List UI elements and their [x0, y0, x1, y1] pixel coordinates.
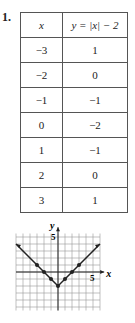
- table-row: −1−1: [21, 88, 128, 113]
- table-row: 31: [21, 188, 128, 213]
- table-row: 20: [21, 163, 128, 188]
- data-point: [56, 284, 60, 288]
- data-point: [70, 270, 74, 274]
- header-y: y = |x| − 2: [63, 13, 128, 38]
- x-axis-label: x: [105, 268, 111, 279]
- cell-x: 3: [21, 188, 63, 213]
- table-row: −31: [21, 38, 128, 63]
- y-axis-arrow: [56, 227, 60, 231]
- data-point: [63, 277, 67, 281]
- data-point: [49, 277, 53, 281]
- cell-y: 1: [63, 38, 128, 63]
- cell-y: 1: [63, 188, 128, 213]
- y-axis-label: y: [49, 222, 55, 231]
- cell-x: −3: [21, 38, 63, 63]
- x-tick-label: 5: [90, 273, 95, 283]
- cell-y: 0: [63, 163, 128, 188]
- graph: 55xy: [0, 222, 135, 323]
- table-row: 1−1: [21, 138, 128, 163]
- header-x: x: [21, 13, 63, 38]
- x-axis-arrow: [100, 270, 104, 274]
- cell-y: 0: [63, 63, 128, 88]
- data-point: [35, 263, 39, 267]
- cell-y: −1: [63, 138, 128, 163]
- cell-x: 1: [21, 138, 63, 163]
- table-row: −20: [21, 63, 128, 88]
- value-table: x y = |x| − 2 −31−20−1−10−21−12031: [20, 12, 128, 213]
- cell-x: −1: [21, 88, 63, 113]
- data-point: [77, 263, 81, 267]
- table-header-row: x y = |x| − 2: [21, 13, 128, 38]
- cell-x: 0: [21, 113, 63, 138]
- data-point: [42, 270, 46, 274]
- problem-number: 1.: [2, 10, 11, 25]
- table-row: 0−2: [21, 113, 128, 138]
- cell-y: −1: [63, 88, 128, 113]
- y-tick-label: 5: [51, 232, 56, 242]
- cell-x: 2: [21, 163, 63, 188]
- cell-y: −2: [63, 113, 128, 138]
- cell-x: −2: [21, 63, 63, 88]
